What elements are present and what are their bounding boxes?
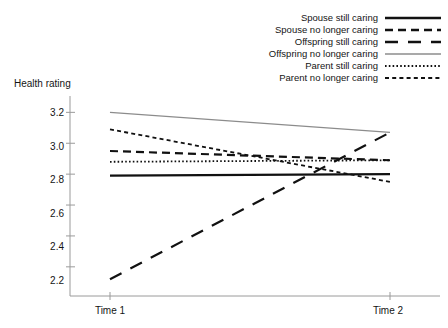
legend-label: Offspring no longer caring — [269, 48, 378, 60]
legend-key-line — [384, 72, 442, 84]
line-chart: Health rating 3.2 3.0 2.8 2.6 2.4 2.2 Ti… — [0, 0, 448, 328]
legend-item-spouse-no-longer-caring: Spouse no longer caring — [269, 24, 442, 36]
legend-key-line — [384, 60, 442, 72]
legend-label: Offspring still caring — [295, 36, 378, 48]
legend-item-parent-no-longer-caring: Parent no longer caring — [269, 72, 442, 84]
series-line — [110, 160, 390, 162]
legend-item-offspring-still-caring: Offspring still caring — [269, 36, 442, 48]
legend-item-spouse-still-caring: Spouse still caring — [269, 12, 442, 24]
legend: Spouse still caring Spouse no longer car… — [269, 12, 442, 84]
series-line — [110, 132, 390, 279]
series-line — [110, 174, 390, 176]
legend-label: Spouse no longer caring — [275, 24, 378, 36]
series-line — [110, 151, 390, 160]
legend-item-parent-still-caring: Parent still caring — [269, 60, 442, 72]
legend-item-offspring-no-longer-caring: Offspring no longer caring — [269, 48, 442, 60]
legend-key-line — [384, 48, 442, 60]
legend-key-line — [384, 24, 442, 36]
series-line — [110, 112, 390, 132]
legend-key-line — [384, 12, 442, 24]
legend-key-line — [384, 36, 442, 48]
legend-label: Spouse still caring — [301, 12, 378, 24]
legend-label: Parent still caring — [305, 60, 378, 72]
legend-label: Parent no longer caring — [279, 72, 378, 84]
series-lines-group — [110, 112, 390, 279]
